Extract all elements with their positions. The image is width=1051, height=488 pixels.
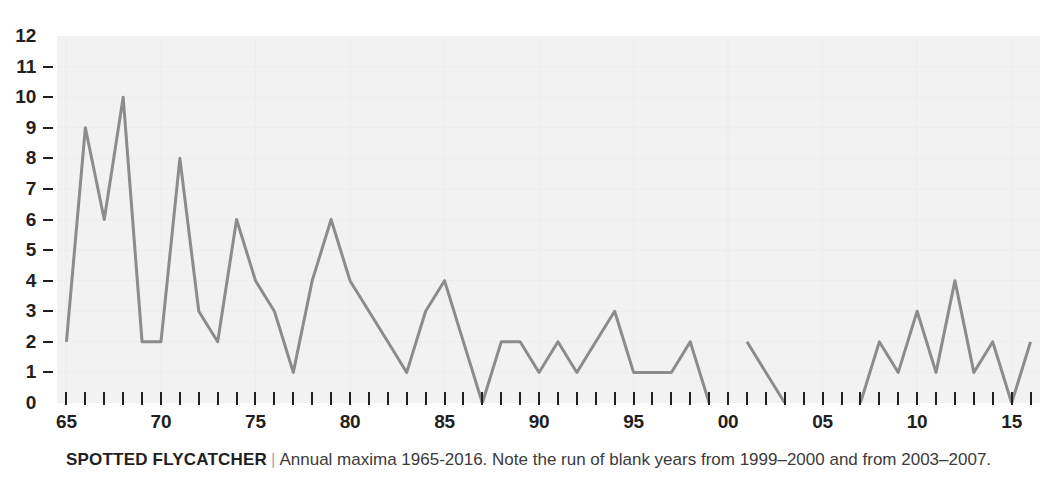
chart-figure: 0123456789101112 6570758085909500051015 …	[0, 0, 1051, 488]
y-axis-tick-mark	[43, 249, 53, 251]
y-axis-tick-mark	[43, 219, 53, 221]
x-axis-tick-mark	[141, 392, 143, 405]
x-axis-tick-mark	[633, 392, 635, 405]
y-axis-tick-mark	[43, 96, 53, 98]
y-axis-tick: 10	[15, 90, 57, 104]
y-axis-tick-label: 7	[26, 182, 36, 196]
x-axis-tick-label: 65	[56, 411, 77, 433]
x-axis-tick-mark	[878, 392, 880, 405]
x-axis-tick-mark	[765, 392, 767, 405]
y-axis-tick-label: 6	[26, 213, 36, 227]
y-axis-tick: 7	[26, 182, 57, 196]
y-axis-tick: 9	[26, 121, 57, 135]
x-axis-tick-mark	[500, 392, 502, 405]
x-axis-tick-mark	[481, 392, 483, 405]
y-axis-tick-mark	[43, 402, 53, 404]
y-axis-tick: 1	[26, 365, 57, 379]
x-axis-tick-mark	[444, 392, 446, 405]
x-axis-tick-mark	[614, 392, 616, 405]
x-axis-tick-label: 90	[529, 411, 550, 433]
x-axis-tick-mark	[84, 392, 86, 405]
y-axis-tick-label: 10	[15, 90, 36, 104]
x-axis-tick-mark	[538, 392, 540, 405]
x-axis-tick-mark	[368, 392, 370, 405]
x-axis-tick-mark	[897, 392, 899, 405]
x-axis-tick-label: 15	[1001, 411, 1022, 433]
y-axis: 0123456789101112	[0, 0, 57, 420]
y-axis-tick-label: 9	[26, 121, 36, 135]
x-axis-tick-mark	[160, 392, 162, 405]
x-axis-tick-mark	[670, 392, 672, 405]
x-axis-tick-mark	[103, 392, 105, 405]
x-axis-tick-label: 05	[812, 411, 833, 433]
x-axis-tick-mark	[198, 392, 200, 405]
y-axis-tick-label: 12	[15, 29, 36, 43]
y-axis-tick-mark	[43, 280, 53, 282]
x-axis-tick-mark	[916, 392, 918, 405]
y-axis-tick-label: 4	[26, 274, 36, 288]
x-axis-tick-mark	[292, 392, 294, 405]
y-axis-tick-mark	[43, 310, 53, 312]
y-axis-tick: 6	[26, 213, 57, 227]
caption-separator: |	[267, 450, 279, 469]
y-axis-tick-mark	[43, 371, 53, 373]
x-axis-tick-label: 95	[623, 411, 644, 433]
x-axis-tick-mark	[1011, 392, 1013, 405]
y-axis-tick-mark	[43, 66, 53, 68]
x-axis-tick-label: 75	[245, 411, 266, 433]
x-axis-tick-mark	[784, 392, 786, 405]
x-axis-tick-mark	[349, 392, 351, 405]
x-axis-tick-mark	[595, 392, 597, 405]
x-axis-tick-mark	[462, 392, 464, 405]
y-axis-tick: 12	[15, 29, 57, 43]
y-axis-tick: 5	[26, 243, 57, 257]
x-axis-tick-mark	[519, 392, 521, 405]
caption-description: Annual maxima 1965-2016. Note the run of…	[279, 450, 991, 469]
x-axis-tick-mark	[179, 392, 181, 405]
x-axis-tick-mark	[387, 392, 389, 405]
y-axis-tick-label: 5	[26, 243, 36, 257]
x-axis-tick-mark	[859, 392, 861, 405]
x-axis-tick-label: 00	[718, 411, 739, 433]
y-axis-tick-label: 8	[26, 151, 36, 165]
x-axis-tick-mark	[1030, 392, 1032, 405]
x-axis-tick-mark	[651, 392, 653, 405]
x-axis-tick-label: 85	[434, 411, 455, 433]
x-axis-tick-mark	[330, 392, 332, 405]
y-axis-tick-label: 2	[26, 335, 36, 349]
x-axis-tick-mark	[841, 392, 843, 405]
x-axis-tick-mark	[557, 392, 559, 405]
x-axis-tick-mark	[273, 392, 275, 405]
y-axis-tick: 2	[26, 335, 57, 349]
x-axis-tick-mark	[954, 392, 956, 405]
y-axis-tick-mark	[43, 127, 53, 129]
y-axis-tick: 0	[26, 396, 57, 410]
x-axis-tick-mark	[803, 392, 805, 405]
x-axis-tick-mark	[254, 392, 256, 405]
x-axis-tick-mark	[425, 392, 427, 405]
x-axis-tick-mark	[973, 392, 975, 405]
x-axis-tick-mark	[992, 392, 994, 405]
x-axis-tick-mark	[576, 392, 578, 405]
x-axis-tick-mark	[935, 392, 937, 405]
x-axis-tick-label: 80	[340, 411, 361, 433]
y-axis-tick-mark	[43, 188, 53, 190]
x-axis-tick-mark	[217, 392, 219, 405]
x-axis-tick-mark	[708, 392, 710, 405]
y-axis-tick: 11	[16, 60, 57, 74]
x-axis: 6570758085909500051015	[57, 392, 1040, 442]
y-axis-tick: 3	[26, 304, 57, 318]
x-axis-tick-mark	[822, 392, 824, 405]
y-axis-tick: 4	[26, 274, 57, 288]
y-axis-tick-label: 11	[16, 60, 36, 74]
chart-caption: SPOTTED FLYCATCHER|Annual maxima 1965-20…	[66, 449, 1041, 471]
x-axis-tick-mark	[65, 392, 67, 405]
x-axis-tick-mark	[311, 392, 313, 405]
y-axis-tick-mark	[43, 341, 53, 343]
x-axis-tick-label: 10	[907, 411, 928, 433]
y-axis-tick-label: 0	[26, 396, 36, 410]
y-axis-tick-label: 1	[26, 365, 36, 379]
y-axis-tick-mark	[43, 157, 53, 159]
caption-species: SPOTTED FLYCATCHER	[66, 450, 267, 469]
x-axis-tick-mark	[406, 392, 408, 405]
